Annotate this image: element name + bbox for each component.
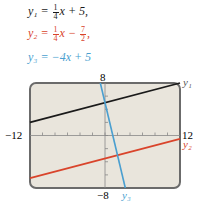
xmin-label: −12 [5,129,22,141]
y1-curve-label: y₁ [183,76,192,88]
ymin-label: −8 [97,189,109,201]
ymax-label: 8 [100,71,106,83]
graph [0,0,204,201]
y2-curve-label: y₂ [183,138,192,150]
y3-curve-label: y₃ [122,189,131,201]
